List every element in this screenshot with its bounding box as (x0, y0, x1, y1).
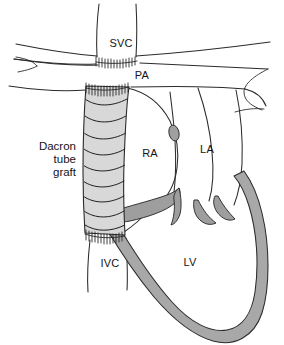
diagram-canvas: SVC PA RA LA LV IVC Dacron tube graft (0, 0, 284, 345)
mitral-valve (194, 196, 235, 224)
upper-vessel-band (14, 42, 270, 72)
cardiac-graft-figure: SVC PA RA LA LV IVC Dacron tube graft (0, 0, 284, 345)
dacron-tube-graft (83, 86, 129, 235)
label-la: LA (200, 143, 214, 155)
label-pa: PA (135, 69, 150, 81)
label-dacron-tube-graft: Dacron tube graft (39, 140, 77, 178)
label-ivc: IVC (101, 257, 120, 269)
label-lv: LV (183, 256, 197, 268)
superior-vena-cava (97, 4, 137, 57)
graft-label-line-2: tube (54, 153, 76, 165)
graft-label-line-1: Dacron (39, 140, 76, 152)
atrial-septum (167, 92, 180, 192)
fossa-ovalis (167, 124, 180, 142)
label-svc: SVC (109, 37, 132, 49)
label-ra: RA (142, 147, 158, 159)
suture-svc-anastomosis (96, 57, 137, 68)
graft-label-line-3: graft (53, 166, 77, 178)
